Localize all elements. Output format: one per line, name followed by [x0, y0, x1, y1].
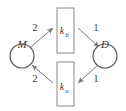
edge-m-to-kb: 2 [31, 22, 53, 47]
edge-d-to-ku: 1 [78, 64, 99, 84]
transition-kb-label-base: k [60, 25, 65, 36]
cycle-diagram-svg: 2 1 1 2 M D k b [0, 0, 126, 111]
transition-node-ku[interactable]: k u [57, 62, 74, 106]
edge-label-kb-to-d: 1 [94, 22, 99, 33]
place-node-m[interactable]: M [10, 38, 34, 68]
place-node-d[interactable]: D [93, 38, 117, 68]
transition-kb-label-sub: b [65, 31, 69, 39]
edge-label-d-to-ku: 1 [94, 73, 99, 84]
place-m-label: M [16, 38, 27, 50]
transition-ku-label-sub: u [65, 87, 69, 95]
diagram-canvas: 2 1 1 2 M D k b [0, 0, 126, 111]
edge-label-m-to-kb: 2 [33, 22, 38, 33]
edge-kb-to-d: 1 [78, 22, 99, 47]
place-d-label: D [100, 38, 109, 50]
transition-node-kb[interactable]: k b [57, 8, 74, 53]
edge-label-ku-to-m: 2 [33, 73, 38, 84]
transition-ku-label-base: k [60, 81, 65, 92]
edge-ku-to-m: 2 [32, 65, 53, 84]
